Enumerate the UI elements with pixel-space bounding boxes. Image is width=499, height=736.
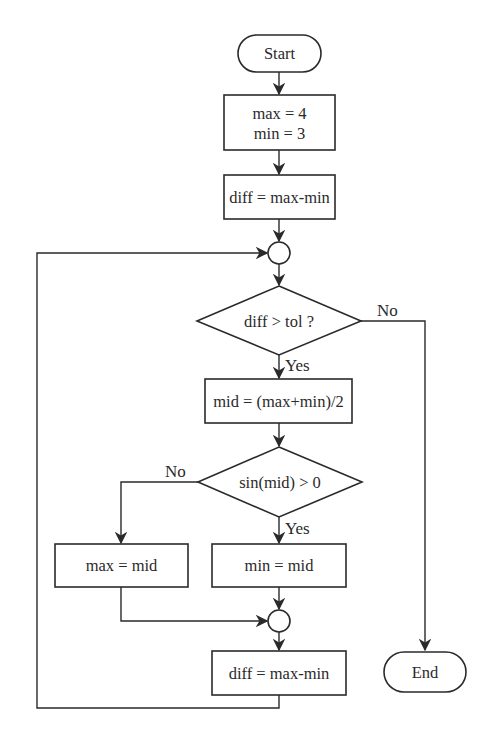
- edge-setmax-merge: [121, 587, 267, 621]
- merge-join-connector: [268, 610, 290, 632]
- set-max-label: max = mid: [86, 556, 158, 575]
- cond-sin-label: sin(mid) > 0: [239, 473, 321, 492]
- diff1-label: diff = max-min: [229, 188, 330, 207]
- node-set-min: min = mid: [212, 544, 346, 587]
- node-set-max: max = mid: [55, 544, 188, 587]
- init-line-max: max = 4: [252, 104, 306, 123]
- cond-tol-yes-label: Yes: [285, 356, 310, 375]
- end-label: End: [412, 663, 439, 682]
- node-cond-sin: sin(mid) > 0: [198, 447, 362, 517]
- set-min-label: min = mid: [245, 556, 315, 575]
- node-init: max = 4 min = 3: [224, 95, 335, 150]
- node-end: End: [384, 652, 466, 692]
- node-start: Start: [238, 35, 321, 72]
- cond-tol-no-label: No: [377, 301, 398, 320]
- node-cond-tol: diff > tol ?: [197, 286, 361, 355]
- edge-condsin-no-setmax: [121, 482, 198, 543]
- node-diff1: diff = max-min: [224, 175, 335, 219]
- cond-sin-no-label: No: [165, 462, 186, 481]
- cond-sin-yes-label: Yes: [285, 519, 310, 538]
- node-mid: mid = (max+min)/2: [205, 379, 352, 423]
- cond-tol-label: diff > tol ?: [244, 312, 314, 331]
- node-diff2: diff = max-min: [212, 651, 346, 695]
- loop-join-connector: [268, 242, 290, 264]
- init-line-min: min = 3: [254, 124, 305, 143]
- edge-condtol-no-end: [361, 321, 425, 650]
- mid-label: mid = (max+min)/2: [213, 392, 343, 411]
- flowchart-canvas: Start max = 4 min = 3 diff = max-min dif…: [0, 0, 499, 736]
- start-label: Start: [264, 44, 296, 63]
- diff2-label: diff = max-min: [229, 664, 330, 683]
